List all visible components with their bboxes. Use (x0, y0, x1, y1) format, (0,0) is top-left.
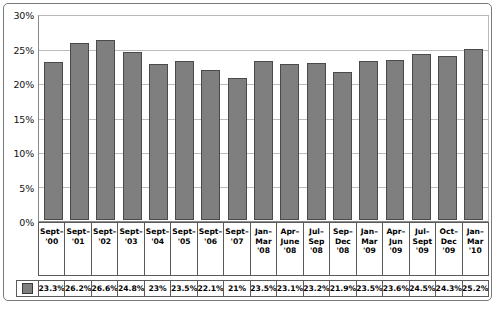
x-axis-label: Sept–'00 (39, 223, 65, 275)
data-value-cell: 23.5% (171, 281, 197, 296)
x-axis-label: Jul–Sept'09 (410, 223, 436, 275)
bar (464, 49, 483, 220)
data-value-cell: 24.5% (410, 281, 436, 296)
data-value-row: 23.3%26.2%26.6%24.8%23%23.5%22.1%21%23.5… (16, 280, 489, 297)
bar (254, 61, 273, 220)
bar-cell (434, 17, 460, 220)
x-axis-label: Jul–Sep'08 (304, 223, 330, 275)
x-axis-label: Sept–'03 (118, 223, 144, 275)
chart-frame: 30%25%20%15%10%5%0% Sept–'00Sept–'01Sept… (3, 3, 492, 301)
data-value-cell: 26.2% (65, 281, 91, 296)
bar-series (40, 17, 487, 220)
x-axis-label: Apr–June'08 (277, 223, 303, 275)
x-axis-label: Jan–Mar'09 (357, 223, 383, 275)
data-value-cell: 23.2% (304, 281, 330, 296)
bar-cell (303, 17, 329, 220)
y-axis-tick-label: 25% (13, 44, 34, 55)
x-axis-label: Jan–Mar'10 (463, 223, 489, 275)
bar-cell (408, 17, 434, 220)
bar (359, 61, 378, 220)
bar-cell (66, 17, 92, 220)
bar (96, 40, 115, 220)
bar (44, 62, 63, 220)
bar-cell (382, 17, 408, 220)
data-value-cell: 22.1% (198, 281, 224, 296)
data-value-cell: 23.5% (357, 281, 383, 296)
legend-cell (17, 281, 39, 296)
data-value-cell: 23.3% (39, 281, 65, 296)
bar-cell (93, 17, 119, 220)
bar (438, 56, 457, 220)
x-axis-label: Sept–'05 (171, 223, 197, 275)
bar (123, 52, 142, 220)
x-axis-label: Apr–Jun'09 (383, 223, 409, 275)
x-axis-label: Sep–Dec'08 (330, 223, 356, 275)
bar-cell (145, 17, 171, 220)
bar (333, 72, 352, 220)
data-value-cell: 26.6% (92, 281, 118, 296)
x-axis-label: Sept–'07 (224, 223, 250, 275)
bar-cell (171, 17, 197, 220)
bar-cell (119, 17, 145, 220)
bar-cell (250, 17, 276, 220)
x-axis-label-row: Sept–'00Sept–'01Sept–'02Sept–'03Sept–'04… (38, 222, 489, 276)
x-axis-label: Sept–'01 (65, 223, 91, 275)
y-axis-tick-label: 0% (19, 217, 34, 228)
y-axis-tick-label: 15% (13, 113, 34, 124)
data-value-cell: 23.5% (251, 281, 277, 296)
bar (386, 60, 405, 220)
plot-area (38, 15, 489, 222)
x-axis-label: Oct–Dec'09 (436, 223, 462, 275)
x-axis-label: Sept–'02 (92, 223, 118, 275)
x-axis-label: Jan–Mar'08 (251, 223, 277, 275)
bar-cell (224, 17, 250, 220)
y-axis-tick-label: 30% (13, 10, 34, 21)
bar-cell (40, 17, 66, 220)
bar (307, 63, 326, 220)
y-axis-tick-label: 20% (13, 79, 34, 90)
data-value-cell: 23.1% (277, 281, 303, 296)
plot-wrapper (38, 15, 489, 222)
x-axis-label: Sept–'06 (198, 223, 224, 275)
bar (228, 78, 247, 220)
x-axis-label: Sept–'04 (145, 223, 171, 275)
y-axis-tick-label: 10% (13, 148, 34, 159)
bar-cell (329, 17, 355, 220)
bar (175, 61, 194, 220)
data-value-cell: 21.9% (330, 281, 356, 296)
bar (280, 64, 299, 220)
legend-swatch-icon (22, 283, 33, 294)
bar-cell (356, 17, 382, 220)
bar-cell (198, 17, 224, 220)
bar (412, 54, 431, 220)
data-value-cell: 21% (224, 281, 250, 296)
bar-cell (461, 17, 487, 220)
bar-cell (277, 17, 303, 220)
data-value-cell: 24.8% (118, 281, 144, 296)
data-value-cell: 25.2% (463, 281, 488, 296)
y-axis-tick-label: 5% (19, 182, 34, 193)
data-value-cell: 23.6% (383, 281, 409, 296)
y-axis-labels: 30%25%20%15%10%5%0% (4, 8, 38, 222)
data-value-cell: 24.3% (436, 281, 462, 296)
bar (70, 43, 89, 220)
data-value-cell: 23% (145, 281, 171, 296)
bar (149, 64, 168, 220)
bar (201, 70, 220, 220)
